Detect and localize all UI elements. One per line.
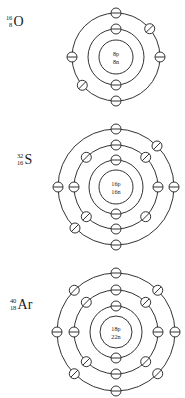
electron (153, 182, 163, 192)
mass-number-sulfur: 32 (17, 152, 23, 159)
atomic-number-argon: 18 (10, 304, 16, 312)
bohr-model-argon: 18p22n (50, 266, 182, 398)
mass-number-argon: 40 (10, 297, 16, 304)
mass-number-oxygen: 16 (6, 14, 12, 21)
electron (111, 224, 121, 234)
electron (67, 52, 77, 62)
electron (111, 353, 121, 363)
bohr-model-sulfur: 16p16n (51, 122, 181, 252)
element-symbol-oxygen: O (14, 15, 24, 29)
electron (81, 297, 91, 307)
nucleus-proton-label: 18p (111, 325, 120, 332)
electron (81, 212, 91, 222)
electron (111, 155, 121, 165)
nucleus-neutron-label: 8n (113, 58, 119, 65)
electron (111, 240, 121, 250)
electron (111, 8, 121, 18)
electron (111, 24, 121, 34)
element-symbol-sulfur: S (25, 153, 33, 167)
electron (111, 268, 121, 278)
electron (111, 80, 121, 90)
electron (81, 357, 91, 367)
electron (141, 152, 151, 162)
electron (77, 80, 87, 90)
atomic-number-sulfur: 16 (17, 159, 23, 167)
electron (111, 285, 121, 295)
nucleus-proton-label: 16p (111, 180, 120, 187)
electron (141, 212, 151, 222)
nuclide-label-oxygen: 16 8 O (6, 14, 24, 30)
electron (152, 141, 162, 151)
electron (141, 357, 151, 367)
atomic-number-oxygen: 8 (9, 21, 12, 29)
electron (111, 301, 121, 311)
electron (69, 285, 79, 295)
bohr-diagram-page: 16 8 O 8p8n 32 16 S 16p16n 40 18 Ar 18p2… (0, 0, 185, 398)
electron (69, 182, 79, 192)
electron (169, 182, 179, 192)
electron (69, 369, 79, 379)
electron (111, 386, 121, 396)
electron (111, 124, 121, 134)
nuclide-numbers-oxygen: 16 8 (6, 14, 12, 30)
electron (111, 209, 121, 219)
nuclide-label-argon: 40 18 Ar (10, 297, 32, 313)
nuclide-numbers-sulfur: 32 16 (17, 152, 23, 168)
element-symbol-argon: Ar (18, 298, 33, 312)
electron (111, 369, 121, 379)
electron (53, 182, 63, 192)
electron (111, 96, 121, 106)
bohr-model-oxygen: 8p8n (65, 6, 167, 108)
electron (153, 285, 163, 295)
nuclide-label-sulfur: 32 16 S (17, 152, 32, 168)
electron (69, 327, 79, 337)
electron (153, 327, 163, 337)
electron (145, 24, 155, 34)
electron (52, 327, 62, 337)
electron (111, 140, 121, 150)
electron (155, 52, 165, 62)
electron (70, 223, 80, 233)
nucleus-neutron-label: 22n (111, 333, 120, 340)
electron (81, 152, 91, 162)
nucleus-neutron-label: 16n (111, 188, 120, 195)
nucleus-proton-label: 8p (113, 50, 119, 57)
electron (170, 327, 180, 337)
nuclide-numbers-argon: 40 18 (10, 297, 16, 313)
electron (153, 369, 163, 379)
electron (141, 297, 151, 307)
